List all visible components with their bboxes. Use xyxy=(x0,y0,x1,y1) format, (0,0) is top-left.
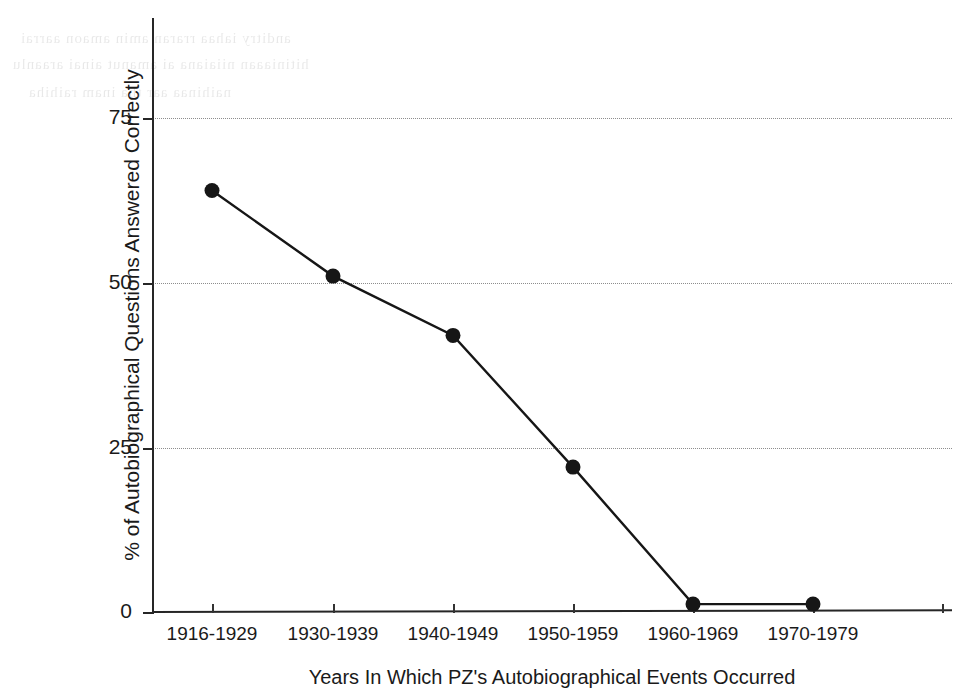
x-tick-label-1930-1939: 1930-1939 xyxy=(288,623,379,645)
data-point xyxy=(686,597,701,612)
data-point xyxy=(446,328,461,343)
data-point xyxy=(566,460,581,475)
x-tick-label-1940-1949: 1940-1949 xyxy=(408,623,499,645)
series-markers xyxy=(205,183,821,612)
plot-area: 75 50 25 0 1916-1929 1930-1939 1940-1949… xyxy=(152,18,952,613)
data-point xyxy=(205,183,220,198)
data-point xyxy=(806,597,821,612)
x-axis-title: Years In Which PZ's Autobiographical Eve… xyxy=(152,666,952,689)
data-point xyxy=(326,269,341,284)
line-chart-figure: 75 50 25 0 1916-1929 1930-1939 1940-1949… xyxy=(0,0,955,697)
x-tick-label-1950-1959: 1950-1959 xyxy=(528,623,619,645)
series-polyline xyxy=(212,191,813,605)
y-axis-title: % of Autobiographical Questions Answered… xyxy=(120,0,144,697)
x-tick-label-1960-1969: 1960-1969 xyxy=(648,623,739,645)
data-series-line xyxy=(152,18,952,613)
x-tick-label-1916-1929: 1916-1929 xyxy=(167,623,258,645)
x-tick-label-1970-1979: 1970-1979 xyxy=(768,623,859,645)
